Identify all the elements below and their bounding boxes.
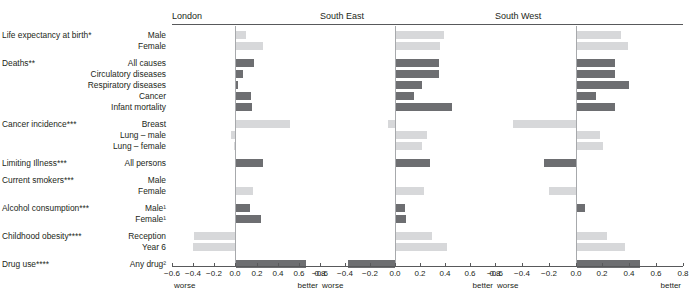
axis-label-worse: worse bbox=[322, 281, 343, 291]
row-label: Cancer incidence***Breast bbox=[0, 119, 172, 130]
x-axis-tick-label: 0.2 bbox=[407, 269, 433, 279]
bar bbox=[236, 103, 252, 111]
group-label: Drug use**** bbox=[2, 259, 49, 270]
bar bbox=[577, 31, 621, 39]
x-axis-tick bbox=[522, 263, 523, 266]
bar bbox=[544, 159, 576, 167]
row-sublabel: All persons bbox=[125, 158, 166, 169]
row-sublabel: Respiratory diseases bbox=[88, 80, 166, 91]
x-axis-tick bbox=[235, 263, 236, 266]
x-axis-tick bbox=[470, 263, 471, 266]
x-axis-tick bbox=[320, 263, 321, 266]
bar bbox=[396, 42, 440, 50]
bar bbox=[577, 70, 615, 78]
group-label: Current smokers*** bbox=[2, 175, 74, 186]
row-label: Cancer bbox=[0, 91, 172, 102]
row-sublabel: Breast bbox=[142, 119, 166, 130]
row-sublabel: Year 6 bbox=[142, 242, 166, 253]
group-label: Alcohol consumption*** bbox=[2, 203, 89, 214]
row-sublabel: Female bbox=[138, 186, 166, 197]
row-sublabel: Female¹ bbox=[135, 214, 166, 225]
bar bbox=[396, 215, 406, 223]
row-sublabel: Cancer bbox=[139, 91, 166, 102]
x-axis-tick-label: 0.0 bbox=[382, 269, 408, 279]
group-label: Childhood obesity**** bbox=[2, 231, 82, 242]
x-axis-tick-label: 0.6 bbox=[457, 269, 483, 279]
panel-title: South West bbox=[495, 11, 541, 22]
row-label: Female bbox=[0, 41, 172, 52]
bar bbox=[236, 92, 251, 100]
row-sublabel: Male bbox=[148, 30, 166, 41]
bar bbox=[396, 232, 432, 240]
bar bbox=[236, 81, 238, 89]
axis-label-better: better bbox=[298, 281, 318, 291]
row-label: Female bbox=[0, 186, 172, 197]
panel-south-west: South West−0.6−0.4−0.20.00.20.40.60.8wor… bbox=[495, 0, 683, 302]
group-label: Life expectancy at birth* bbox=[2, 30, 91, 41]
x-axis-tick bbox=[257, 263, 258, 266]
x-axis-tick-label: 0.2 bbox=[589, 269, 615, 279]
x-axis-tick bbox=[172, 263, 173, 266]
bar bbox=[396, 31, 444, 39]
bar bbox=[396, 131, 427, 139]
bar bbox=[577, 42, 628, 50]
row-label: Current smokers***Male bbox=[0, 175, 172, 186]
row-sublabel: All causes bbox=[128, 58, 166, 69]
group-label: Limiting Illness*** bbox=[2, 158, 67, 169]
row-label: Drug use****Any drug² bbox=[0, 259, 172, 270]
bar bbox=[577, 92, 596, 100]
bar bbox=[396, 103, 452, 111]
row-label: Female¹ bbox=[0, 214, 172, 225]
bar bbox=[396, 92, 414, 100]
bar bbox=[234, 142, 235, 150]
group-label: Deaths** bbox=[2, 58, 35, 69]
row-sublabel: Circulatory diseases bbox=[91, 69, 166, 80]
bar bbox=[549, 187, 576, 195]
x-axis-line bbox=[320, 266, 495, 267]
bar bbox=[396, 70, 439, 78]
x-axis-tick-label: 0.4 bbox=[432, 269, 458, 279]
bar bbox=[396, 142, 422, 150]
bar bbox=[236, 204, 250, 212]
x-axis-tick bbox=[445, 263, 446, 266]
x-axis-tick bbox=[345, 263, 346, 266]
x-axis-tick-label: 0.6 bbox=[643, 269, 669, 279]
bar bbox=[236, 59, 254, 67]
x-axis-tick bbox=[576, 263, 577, 266]
bar bbox=[396, 187, 424, 195]
bar bbox=[577, 232, 607, 240]
bar bbox=[194, 232, 235, 240]
bar bbox=[236, 187, 253, 195]
bar bbox=[396, 204, 405, 212]
panel-header-rule bbox=[172, 24, 320, 25]
x-axis-tick-label: −0.4 bbox=[509, 269, 535, 279]
axis-label-worse: worse bbox=[174, 281, 195, 291]
bar bbox=[577, 243, 625, 251]
row-sublabel: Lung – male bbox=[120, 130, 166, 141]
x-axis-tick-label: 0.0 bbox=[563, 269, 589, 279]
row-label: Deaths**All causes bbox=[0, 58, 172, 69]
row-label: Circulatory diseases bbox=[0, 69, 172, 80]
x-axis-tick bbox=[370, 263, 371, 266]
panel-london: London−0.6−0.4−0.20.00.20.40.60.8worsebe… bbox=[172, 0, 320, 302]
row-label-column: Life expectancy at birth*MaleFemaleDeath… bbox=[0, 0, 172, 302]
row-sublabel: Infant mortality bbox=[111, 102, 166, 113]
row-sublabel: Reception bbox=[128, 231, 166, 242]
row-label: Infant mortality bbox=[0, 102, 172, 113]
axis-label-worse: worse bbox=[497, 281, 518, 291]
row-label: Childhood obesity****Reception bbox=[0, 231, 172, 242]
bar bbox=[577, 81, 629, 89]
bar bbox=[236, 70, 243, 78]
x-axis-tick bbox=[549, 263, 550, 266]
bar bbox=[396, 59, 439, 67]
bar bbox=[577, 59, 615, 67]
row-label: Alcohol consumption***Male¹ bbox=[0, 203, 172, 214]
x-axis-tick bbox=[214, 263, 215, 266]
panel-title: South East bbox=[320, 11, 364, 22]
x-axis-tick-label: 0.8 bbox=[670, 269, 693, 279]
bar bbox=[577, 131, 600, 139]
axis-label-better: better bbox=[473, 281, 493, 291]
bar bbox=[396, 81, 422, 89]
row-sublabel: Male bbox=[148, 175, 166, 186]
